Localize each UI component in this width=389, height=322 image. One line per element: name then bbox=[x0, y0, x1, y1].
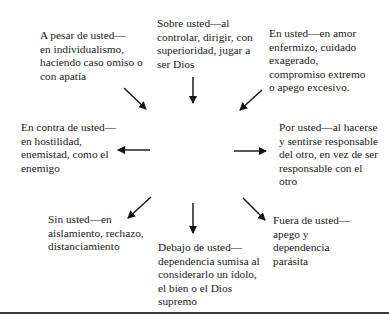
node-top-left: A pesar de usted— en individualismo, hac… bbox=[40, 29, 143, 83]
arrow-top-left-to-center bbox=[124, 88, 146, 109]
arrow-center-to-bottom-right bbox=[243, 198, 265, 220]
arrow-top-right-to-center bbox=[240, 90, 262, 110]
node-bottom: Debajo de usted— dependencia sumisa al c… bbox=[158, 241, 260, 309]
node-right: Por usted—al hacerse y sentirse responsa… bbox=[279, 121, 378, 189]
node-bottom-right: Fuera de usted— apego y dependencia pará… bbox=[273, 214, 350, 268]
node-left: En contra de usted— en hostilidad, enemi… bbox=[21, 121, 116, 175]
bottom-rule bbox=[0, 312, 389, 314]
node-top-right: En usted—en amor enfermizo, cuidado exag… bbox=[269, 27, 365, 95]
node-top: Sobre usted—al controlar, dirigir, con s… bbox=[157, 17, 253, 71]
node-bottom-left: Sin usted—en aislamiento, rechazo, dista… bbox=[48, 213, 144, 254]
